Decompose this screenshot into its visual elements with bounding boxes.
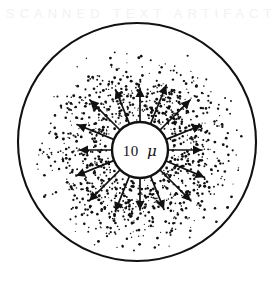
stipple-dot (68, 158, 71, 161)
stipple-dot (89, 191, 91, 193)
stipple-dot (103, 201, 105, 203)
stipple-dot (69, 218, 71, 220)
stipple-dot (72, 207, 74, 209)
stipple-dot (190, 164, 191, 165)
stipple-dot (62, 152, 63, 153)
stipple-dot (109, 94, 111, 96)
stipple-dot (189, 229, 192, 232)
stipple-dot (201, 156, 203, 158)
stipple-dot (125, 89, 127, 91)
stipple-dot (86, 182, 89, 185)
stipple-dot (224, 170, 227, 173)
stipple-dot (207, 139, 210, 142)
stipple-dot (131, 199, 133, 201)
stipple-dot (115, 187, 118, 190)
stipple-dot (207, 100, 209, 102)
stipple-dot (131, 90, 132, 91)
stipple-dot (158, 122, 160, 124)
stipple-dot (66, 178, 67, 179)
stipple-dot (159, 119, 161, 121)
stipple-dot (203, 85, 205, 87)
stipple-dot (160, 66, 162, 68)
stipple-dot (150, 224, 153, 227)
stipple-dot (130, 180, 132, 182)
stipple-dot (94, 162, 96, 164)
stipple-dot (183, 80, 185, 82)
stipple-dot (188, 124, 191, 127)
stipple-dot (87, 190, 89, 192)
stipple-dot (88, 116, 90, 118)
stipple-dot (117, 182, 119, 184)
stipple-dot (100, 226, 101, 227)
stipple-dot (164, 185, 166, 187)
stipple-dot (183, 141, 185, 143)
stipple-dot (98, 120, 100, 122)
stipple-dot (178, 156, 179, 157)
stipple-dot (54, 114, 57, 117)
stipple-dot (65, 157, 68, 160)
stipple-dot (130, 97, 131, 98)
stipple-dot (196, 204, 197, 205)
stipple-dot (95, 140, 98, 143)
stipple-dot (227, 132, 229, 134)
stipple-dot (192, 110, 195, 113)
stipple-dot (229, 113, 231, 115)
stipple-dot (58, 168, 60, 170)
stipple-dot (190, 136, 192, 138)
stipple-dot (135, 206, 137, 208)
stipple-dot (171, 114, 173, 116)
stipple-dot (162, 121, 164, 123)
stipple-dot (226, 206, 229, 209)
stipple-dot (159, 105, 162, 108)
stipple-dot (50, 122, 52, 124)
stipple-dot (71, 104, 72, 105)
stipple-dot (232, 149, 234, 151)
stipple-dot (129, 111, 131, 113)
stipple-dot (148, 226, 149, 227)
stipple-dot (75, 140, 78, 143)
stipple-dot (209, 149, 210, 150)
stipple-dot (125, 225, 127, 227)
stipple-dot (102, 185, 103, 186)
stipple-dot (96, 86, 98, 88)
stipple-dot (104, 196, 106, 198)
stipple-dot (120, 122, 121, 123)
stipple-dot (106, 226, 109, 229)
stipple-dot (190, 227, 191, 228)
stipple-dot (163, 170, 164, 171)
stipple-dot (207, 158, 208, 159)
stipple-dot (72, 94, 75, 97)
stipple-dot (193, 182, 196, 185)
stipple-dot (67, 162, 69, 164)
stipple-dot (114, 231, 116, 233)
stipple-dot (128, 208, 130, 210)
stipple-dot (133, 250, 135, 252)
stipple-dot (62, 132, 64, 134)
stipple-dot (202, 153, 205, 156)
stipple-dot (69, 132, 71, 134)
stipple-dot (115, 85, 117, 87)
stipple-dot (92, 78, 94, 80)
stipple-dot (126, 196, 128, 198)
stipple-dot (133, 97, 135, 99)
stipple-dot (125, 85, 128, 88)
stipple-dot (169, 246, 170, 247)
stipple-dot (41, 143, 43, 145)
stipple-dot (65, 148, 68, 151)
stipple-dot (179, 116, 181, 118)
stipple-dot (60, 107, 62, 109)
stipple-dot (82, 160, 84, 162)
stipple-dot (48, 132, 50, 134)
stipple-dot (144, 203, 147, 206)
stipple-dot (154, 246, 157, 249)
stipple-dot (132, 112, 134, 114)
stipple-dot (122, 215, 124, 217)
stipple-dot (111, 87, 113, 89)
stipple-dot (194, 220, 195, 221)
stipple-dot (138, 108, 139, 109)
stipple-dot (190, 97, 191, 98)
stipple-dot (87, 79, 90, 82)
stipple-dot (97, 75, 99, 77)
stipple-dot (210, 91, 211, 92)
stipple-dot (179, 130, 182, 133)
